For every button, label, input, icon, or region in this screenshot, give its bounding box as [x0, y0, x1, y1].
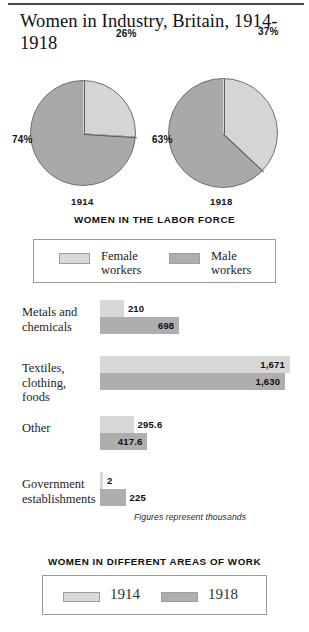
- pie-1918-female-percent: 37%: [258, 26, 279, 37]
- bar-row-track: 2225: [100, 472, 126, 506]
- male-workers-label: Male workers: [211, 249, 251, 277]
- bar-row-track: 210698: [100, 300, 179, 334]
- bar-value-1914: 2: [103, 475, 112, 486]
- areas-of-work-bar-chart: Metals andchemicals210698Textiles,clothi…: [0, 300, 309, 540]
- labor-force-caption: WOMEN IN THE LABOR FORCE: [0, 214, 309, 225]
- bar-value-1914: 1,671: [260, 359, 290, 370]
- bar-row-label-line1: Government: [22, 477, 84, 491]
- bar-row-label-line2: chemicals: [22, 320, 72, 334]
- pie-1914-year-label: 1914: [71, 196, 94, 207]
- male-workers-label-line1: Male: [211, 249, 237, 263]
- bar-1918: 1,630: [100, 373, 285, 390]
- year-1918-label: 1918: [208, 586, 238, 603]
- workers-legend-box: Female workers Male workers: [33, 239, 276, 283]
- bar-row-label-line1: Textiles,: [22, 361, 65, 375]
- bar-row-label-line1: Metals and: [22, 305, 77, 319]
- year-1914-swatch: [63, 592, 100, 602]
- pie-1918-male-percent: 63%: [152, 134, 173, 145]
- female-workers-label-line2: workers: [101, 263, 141, 277]
- bar-row-label: Governmentestablishments: [22, 477, 96, 506]
- bar-row-label-line2: clothing, foods: [22, 376, 66, 405]
- pie-1914-male-percent: 74%: [12, 134, 33, 145]
- top-rule: [8, 3, 304, 5]
- female-workers-label: Female workers: [101, 249, 141, 277]
- year-1918-swatch: [161, 592, 198, 602]
- pie-1918-year-label: 1918: [210, 196, 233, 207]
- year-1914-label: 1914: [110, 586, 140, 603]
- areas-of-work-caption: WOMEN IN DIFFERENT AREAS OF WORK: [0, 556, 309, 567]
- pie-slice-divider: [224, 79, 225, 134]
- male-workers-swatch: [169, 253, 200, 264]
- bar-row-label-line1: Other: [22, 421, 50, 435]
- bar-value-1918: 225: [126, 492, 146, 503]
- pie-slice-divider: [84, 81, 85, 134]
- pie-chart-1914: [30, 80, 136, 186]
- bar-row-track: 295.6417.6: [100, 416, 147, 450]
- bar-value-1914: 210: [124, 303, 144, 314]
- female-workers-swatch: [59, 253, 90, 264]
- infographic-page: Women in Industry, Britain, 1914-1918 26…: [0, 0, 309, 632]
- page-title: Women in Industry, Britain, 1914-1918: [20, 10, 295, 54]
- bar-1918: 225: [100, 489, 126, 506]
- bar-value-1918: 1,630: [256, 376, 286, 387]
- bar-row-label: Other: [22, 421, 96, 436]
- bar-1918: 698: [100, 317, 179, 334]
- legend-item-1918: 1918: [161, 586, 238, 603]
- bar-1914: 2: [100, 472, 103, 489]
- bar-row-label: Metals andchemicals: [22, 305, 96, 334]
- pie-1914-female-percent: 26%: [116, 28, 137, 39]
- pie-slice-divider: [84, 134, 137, 138]
- bar-1914: 210: [100, 300, 124, 317]
- bar-row-label: Textiles,clothing, foods: [22, 361, 96, 405]
- legend-item-1914: 1914: [63, 586, 140, 603]
- bar-value-1914: 295.6: [134, 419, 163, 430]
- pie-slice-divider: [223, 134, 264, 172]
- years-legend-box: 1914 1918: [42, 575, 267, 615]
- bar-1918: 417.6: [100, 433, 147, 450]
- female-workers-label-line1: Female: [101, 249, 138, 263]
- bar-row-label-line2: establishments: [22, 492, 96, 506]
- male-workers-label-line2: workers: [211, 263, 251, 277]
- bar-value-1918: 417.6: [118, 436, 148, 447]
- pie-chart-1918: [168, 78, 278, 188]
- bar-value-1918: 698: [158, 320, 179, 331]
- bar-1914: 1,671: [100, 356, 290, 373]
- figures-note: Figures represent thousands: [100, 512, 280, 522]
- bar-row-track: 1,6711,630: [100, 356, 290, 390]
- bar-1914: 295.6: [100, 416, 134, 433]
- legend-item-female-workers: Female workers: [59, 249, 141, 277]
- legend-item-male-workers: Male workers: [169, 249, 251, 277]
